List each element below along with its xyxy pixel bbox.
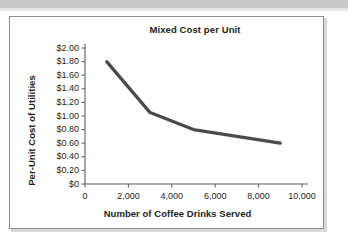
top-gray-band [0,0,348,8]
axes [82,44,309,188]
data-series [107,62,281,144]
plot-area [10,17,325,230]
chart-frame: Mixed Cost per Unit Per-Unit Cost of Uti… [9,16,324,229]
top-band-fade [0,8,348,11]
